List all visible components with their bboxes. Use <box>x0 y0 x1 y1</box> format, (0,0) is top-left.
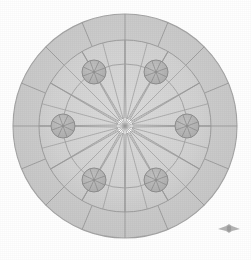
winged-emblem-watermark <box>218 224 240 233</box>
node-circle[interactable] <box>82 60 106 84</box>
node-circle[interactable] <box>144 60 168 84</box>
node-circle[interactable] <box>51 114 75 138</box>
node-circle[interactable] <box>175 114 199 138</box>
figure-canvas: Radial rose-window geometric diagram <box>0 0 251 260</box>
radial-geometry-figure: Radial rose-window geometric diagram <box>0 0 251 260</box>
node-circle[interactable] <box>144 168 168 192</box>
emblem-core-icon <box>227 226 231 232</box>
node-circle[interactable] <box>82 168 106 192</box>
